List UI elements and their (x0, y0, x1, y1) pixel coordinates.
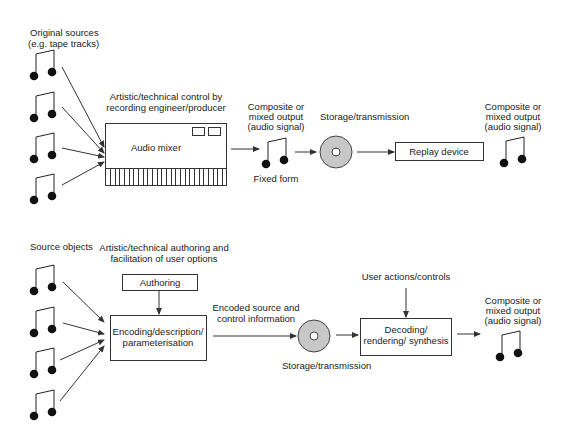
storage-label: Storage/transmission (320, 111, 409, 122)
source-arrow (60, 340, 104, 360)
fixed-form-label: Fixed form (254, 173, 299, 184)
authoring-label: Authoring (140, 277, 181, 288)
music-note-icon (30, 174, 57, 204)
music-note-icon (500, 137, 527, 167)
music-note-icon (30, 265, 57, 295)
decoding-label: rendering/ synthesis (363, 335, 448, 346)
original-sources-label: Original sources (30, 27, 99, 38)
disc-icon (298, 320, 330, 352)
authoring-note-sublabel: facilitation of user options (110, 253, 217, 264)
music-note-icon (262, 138, 289, 168)
replay-device-label: Replay device (409, 146, 469, 157)
encoding-label: parameterisation (123, 337, 194, 348)
source-objects-label: Source objects (30, 241, 93, 252)
music-note-icon (30, 92, 57, 122)
music-note-icon (30, 50, 57, 80)
audio-mixer-label: Audio mixer (131, 142, 181, 153)
music-note-icon (30, 133, 57, 163)
source-arrow (62, 148, 104, 157)
source-arrow (63, 323, 104, 334)
source-arrow (63, 282, 104, 322)
authoring-note-label: Artistic/technical authoring and (99, 242, 228, 253)
user-actions-label: User actions/controls (362, 271, 451, 282)
storage-label: Storage/transmission (282, 360, 371, 371)
music-note-icon (30, 307, 57, 337)
source-arrow (62, 107, 104, 153)
source-arrow (62, 67, 104, 147)
diagram-canvas: Original sources (e.g. tape tracks) Arti… (0, 0, 573, 446)
original-sources-sublabel: (e.g. tape tracks) (28, 38, 99, 49)
mixer-meter-icon (209, 128, 221, 136)
final-output-label: (audio signal) (484, 315, 541, 326)
audio-production-diagram: Original sources (e.g. tape tracks) Arti… (0, 0, 573, 446)
control-label: Artistic/technical control by (110, 91, 223, 102)
decoding-label: Decoding/ (385, 324, 428, 335)
music-note-icon (30, 348, 57, 378)
music-note-icon (496, 331, 523, 361)
final-output-label: (audio signal) (484, 121, 541, 132)
source-arrow (60, 346, 104, 401)
mixer-meter-icon (193, 128, 205, 136)
encoded-source-label: Encoded source and (212, 302, 299, 313)
encoded-source-label: control information (217, 313, 295, 324)
source-arrow (62, 162, 104, 185)
bottom-flow: Source objects Artistic/technical author… (30, 241, 542, 420)
top-flow: Original sources (e.g. tape tracks) Arti… (28, 27, 542, 204)
composite-output-label: (audio signal) (247, 121, 304, 132)
music-note-icon (30, 390, 57, 420)
disc-icon (320, 136, 352, 168)
encoding-label: Encoding/description/ (113, 326, 204, 337)
audio-mixer: Audio mixer (106, 124, 227, 186)
control-sublabel: recording engineer/producer (106, 102, 225, 113)
